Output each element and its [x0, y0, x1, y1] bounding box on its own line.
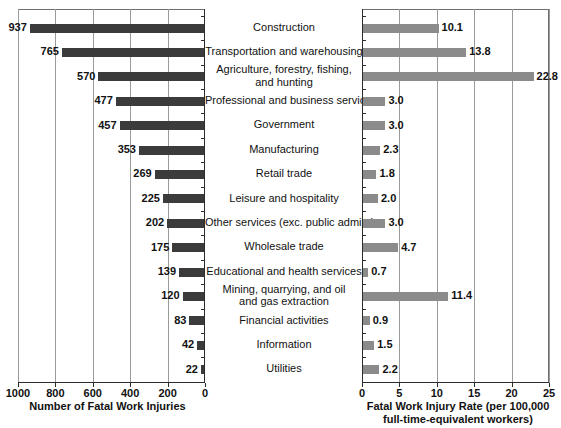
x-axis-title-line: Fatal Work Injury Rate (per 100,000 [350, 400, 561, 413]
x-axis-title-line: Number of Fatal Work Injuries [0, 400, 215, 413]
bar [363, 24, 439, 33]
bar-value-label: 457 [0, 120, 117, 131]
x-axis-rates [362, 382, 549, 383]
category-label: Utilities [205, 362, 363, 375]
bar-value-label: 42 [0, 339, 194, 350]
bar-value-label: 22.8 [537, 71, 558, 82]
panel-fatal-injury-rates: 10.113.822.83.03.02.31.82.03.04.70.711.4… [355, 0, 561, 428]
x-axis-tick [93, 383, 94, 387]
category-tick [362, 357, 366, 358]
bar [116, 97, 205, 106]
bar [30, 24, 205, 33]
category-label: Retail trade [205, 167, 363, 180]
bar [189, 316, 205, 325]
bar [363, 48, 466, 57]
bar-value-label: 175 [0, 242, 169, 253]
x-tick-label: 200 [148, 387, 188, 399]
gridline [399, 9, 400, 383]
bar [155, 170, 205, 179]
gridline [437, 9, 438, 383]
bar [363, 72, 534, 81]
bar [163, 194, 205, 203]
category-labels-column: ConstructionTransportation and warehousi… [205, 0, 363, 428]
bar [167, 219, 205, 228]
bar-value-label: 477 [0, 95, 113, 106]
bar-value-label: 0.9 [373, 315, 388, 326]
bar [363, 268, 368, 277]
x-tick-label: 25 [529, 387, 561, 399]
bar-value-label: 353 [0, 144, 136, 155]
bar [363, 146, 380, 155]
bar-value-label: 2.3 [383, 144, 398, 155]
bar-value-label: 3.0 [388, 120, 403, 131]
category-label: Educational and health services [205, 265, 363, 278]
x-tick-label: 1000 [0, 387, 38, 399]
bar [363, 316, 370, 325]
bar-value-label: 937 [0, 22, 27, 33]
category-label: Professional and business services [205, 94, 363, 107]
gridline [512, 9, 513, 383]
bar [363, 194, 378, 203]
category-tick [362, 235, 366, 236]
bar-value-label: 4.7 [401, 242, 416, 253]
chart-figure: 9377655704774573532692252021751391208342… [0, 0, 561, 428]
bar-value-label: 2.0 [381, 193, 396, 204]
category-label: Construction [205, 21, 363, 34]
category-tick [362, 138, 366, 139]
category-label-line: Agriculture, forestry, fishing, [205, 63, 363, 76]
bar [363, 121, 385, 130]
category-label-line: Utilities [205, 362, 363, 375]
category-tick [362, 284, 366, 285]
x-axis-tick [168, 383, 169, 387]
category-label-line: and hunting [205, 76, 363, 89]
x-axis-counts [18, 382, 205, 383]
category-tick [362, 211, 366, 212]
bar [172, 243, 205, 252]
bar [363, 341, 374, 350]
category-label-line: Construction [205, 21, 363, 34]
bar-value-label: 10.1 [442, 22, 463, 33]
category-tick [362, 309, 366, 310]
category-label-line: Other services (exc. public admin.) [205, 216, 363, 229]
bar [363, 170, 376, 179]
x-axis-tick [474, 383, 475, 387]
x-axis-title-counts: Number of Fatal Work Injuries [0, 400, 215, 413]
x-tick-label: 20 [492, 387, 532, 399]
bar [62, 48, 205, 57]
category-label: Financial activities [205, 314, 363, 327]
x-tick-label: 5 [379, 387, 419, 399]
category-label: Manufacturing [205, 143, 363, 156]
bar-value-label: 139 [0, 266, 176, 277]
gridline [474, 9, 475, 383]
category-tick [362, 162, 366, 163]
category-label-line: Professional and business services [205, 94, 363, 107]
category-label-line: Transportation and warehousing [205, 45, 363, 58]
bar-value-label: 570 [0, 71, 95, 82]
category-tick [362, 333, 366, 334]
bar-value-label: 22 [0, 364, 198, 375]
x-axis-title-rates: Fatal Work Injury Rate (per 100,000full-… [350, 400, 561, 426]
category-label-line: and gas extraction [205, 295, 363, 308]
x-axis-title-line: full-time-equivalent workers) [350, 413, 561, 426]
category-tick [362, 65, 366, 66]
bar-value-label: 765 [0, 46, 59, 57]
bar-value-label: 83 [0, 315, 186, 326]
bar [183, 292, 205, 301]
x-tick-label: 0 [342, 387, 382, 399]
bar [363, 219, 385, 228]
x-axis-tick [399, 383, 400, 387]
bar [363, 97, 385, 106]
bar-value-label: 2.2 [382, 364, 397, 375]
x-tick-label: 15 [454, 387, 494, 399]
bar [139, 146, 205, 155]
x-tick-label: 400 [110, 387, 150, 399]
category-label-line: Financial activities [205, 314, 363, 327]
x-axis-tick [512, 383, 513, 387]
category-label-line: Manufacturing [205, 143, 363, 156]
bar-value-label: 13.8 [469, 46, 490, 57]
bar-value-label: 225 [0, 193, 160, 204]
bar-value-label: 3.0 [388, 95, 403, 106]
plot-top-border-left [18, 9, 205, 10]
bar [120, 121, 205, 130]
x-axis-tick [130, 383, 131, 387]
